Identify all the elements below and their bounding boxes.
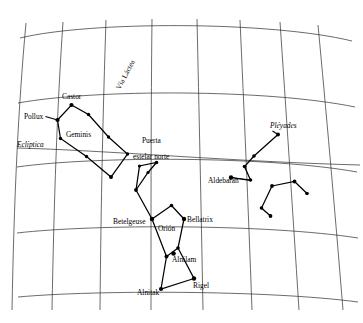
label-via-lactea: Vía Láctea (114, 58, 137, 91)
label-bellatrix: Bellatrix (187, 215, 213, 224)
grid-parallel-1 (20, 26, 352, 41)
star-puerta-3 (134, 188, 138, 192)
star-taurus-1 (270, 184, 274, 188)
label-rigel: Rigel (193, 281, 209, 290)
constellation-geminis-lines (58, 105, 128, 177)
star-bellatrix (182, 217, 186, 221)
grid-meridian-2 (52, 22, 63, 310)
star-betelgeuse (150, 217, 154, 221)
label-geminis: Geminis (66, 130, 91, 139)
star-taurus-5 (269, 214, 273, 218)
label-betelgeuse: Betelgeuse (113, 217, 146, 226)
grid-meridian-8 (318, 25, 343, 310)
grid-parallel-3 (17, 159, 357, 172)
ecliptic-path (17, 148, 360, 165)
label-aldebaran: Aldebarán (208, 176, 239, 185)
star-taurus-3 (305, 192, 309, 196)
grid-parallel-5 (18, 292, 358, 302)
label-ecliptica: Eclíptica (16, 140, 44, 149)
star-puerta-1 (155, 161, 159, 165)
label-orion: Orión (158, 224, 176, 233)
star-taurus-4 (260, 206, 264, 210)
grid-meridian-4 (151, 19, 152, 310)
constellation-pleyades-lines (245, 135, 279, 181)
star-geminis-7 (59, 137, 62, 140)
star-castor (69, 103, 73, 107)
chart-labels: Castor Pollux Geminis Vía Láctea Eclípti… (16, 58, 297, 297)
star-geminis-5 (109, 175, 113, 179)
label-pollux: Pollux (24, 112, 44, 121)
star-pleyades-3 (243, 165, 247, 169)
label-puerta-line2: estelar norte (133, 152, 170, 161)
star-orion-shoulder (170, 204, 174, 208)
label-castor: Castor (62, 92, 82, 101)
grid-meridians (12, 19, 343, 310)
star-pollux (55, 118, 59, 122)
star-geminis-2 (87, 113, 90, 116)
star-pleyades-4 (249, 178, 253, 182)
label-leader-lines (46, 117, 279, 181)
star-mintaka (176, 246, 180, 250)
star-pleyades-2 (252, 154, 256, 158)
star-pleyades-1 (276, 133, 280, 137)
grid-meridian-5 (197, 19, 203, 310)
label-alnilam: Alnilam (172, 255, 196, 264)
ecliptic (17, 148, 360, 165)
star-geminis-4 (126, 152, 129, 155)
star-chart-canvas: Castor Pollux Geminis Vía Láctea Eclípti… (0, 0, 363, 323)
label-pleyades: Pléyades (269, 121, 297, 130)
constellation-taurus-body-lines (262, 182, 308, 217)
grid-meridian-7 (280, 22, 299, 310)
star-chart: Castor Pollux Geminis Vía Láctea Eclípti… (0, 0, 363, 323)
star-taurus-2 (293, 180, 297, 184)
grid-parallel-4 (17, 227, 358, 238)
star-orion-belt-3 (165, 255, 169, 259)
star-puerta-2 (146, 171, 149, 174)
star-geminis-3 (107, 135, 110, 138)
star-geminis-6 (85, 155, 88, 158)
star-puerta-4 (138, 164, 141, 167)
constellation-orion-lines (136, 190, 194, 289)
label-alnitak: Alnitak (137, 288, 159, 297)
grid-meridian-3 (100, 20, 106, 310)
label-puerta-line1: Puerta (142, 136, 162, 145)
star-alnitak (159, 287, 163, 291)
